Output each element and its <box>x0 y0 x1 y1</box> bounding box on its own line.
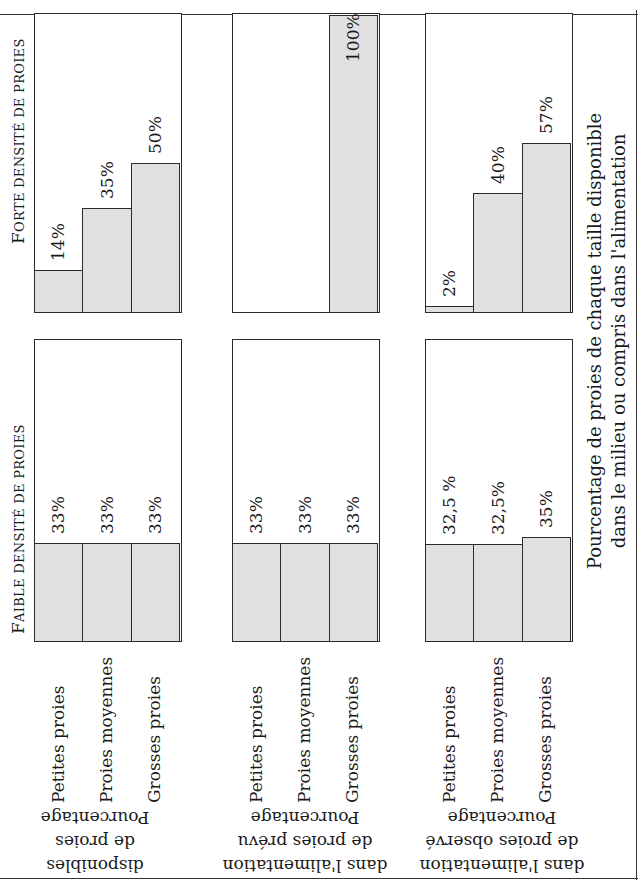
row-label-line: dans l'alimentation <box>215 854 395 878</box>
row-label-line: de proies <box>35 830 155 854</box>
bar-value-label: 35% <box>97 161 117 199</box>
bar-proies-moyennes <box>82 208 131 312</box>
category-label: Grosses proies <box>535 676 555 803</box>
frame-right-line <box>636 10 637 880</box>
row-label-line: Pourcentage <box>215 806 395 830</box>
row-label-observed: dans l'alimentation de proies observé Po… <box>412 806 592 878</box>
bar-petites-proies <box>34 270 83 312</box>
caption-line-2: dans le milieu ou compris dans l'aliment… <box>607 81 631 601</box>
row-label-available: disponibles de proies Pourcentage <box>35 806 155 878</box>
bar-value-label: 33% <box>246 496 266 534</box>
category-label: Proies moyennes <box>96 657 116 803</box>
row-label-line: dans l'alimentation <box>412 854 592 878</box>
bar-value-label: 35% <box>536 490 556 528</box>
bar-proies-moyennes <box>82 543 131 641</box>
high-density-heading: Forte densité de proies <box>8 38 28 244</box>
bar-grosses-proies <box>131 163 180 312</box>
category-label: Proies moyennes <box>487 657 507 803</box>
bar-proies-moyennes <box>473 193 522 312</box>
bar-value-label: 32,5% <box>488 481 508 535</box>
heading-initial: F <box>8 622 28 634</box>
bar-value-label: 57% <box>536 96 556 134</box>
bar-grosses-proies <box>522 537 571 641</box>
row-label-line: Pourcentage <box>35 806 155 830</box>
bar-petites-proies <box>232 543 281 641</box>
bar-proies-moyennes <box>280 543 329 641</box>
bar-value-label: 50% <box>145 116 165 154</box>
row-label-line: de proies observé <box>412 830 592 854</box>
heading-rest: orte densité de proies <box>12 38 27 232</box>
bar-proies-moyennes <box>473 544 522 641</box>
high-density-panel-2: 100% <box>232 13 380 313</box>
low-density-panel-3: 32,5 %32,5%35% <box>425 339 573 642</box>
bar-petites-proies <box>425 306 474 312</box>
heading-initial: F <box>8 232 28 244</box>
bar-value-label: 33% <box>48 496 68 534</box>
category-label: Petites proies <box>246 686 266 804</box>
category-label: Petites proies <box>48 686 68 804</box>
bar-value-label: 33% <box>97 496 117 534</box>
bar-value-label: 100% <box>343 13 363 62</box>
category-label: Proies moyennes <box>294 657 314 803</box>
category-label: Petites proies <box>439 686 459 804</box>
frame-bottom-line <box>0 878 638 879</box>
bar-value-label: 2% <box>439 270 459 297</box>
row-label-line: disponibles <box>35 854 155 878</box>
row-label-line: Pourcentage <box>412 806 592 830</box>
row-label-predicted: dans l'alimentation de proies prévu Pour… <box>215 806 395 878</box>
bar-petites-proies <box>34 543 83 641</box>
bar-grosses-proies <box>131 543 180 641</box>
high-density-panel-3: 2%40%57% <box>425 13 573 313</box>
low-density-heading: Faible densité de proies <box>8 424 28 634</box>
bar-grosses-proies <box>522 143 571 312</box>
category-label: Grosses proies <box>144 676 164 803</box>
bar-value-label: 33% <box>295 496 315 534</box>
row-label-line: de proies prévu <box>215 830 395 854</box>
bar-value-label: 32,5 % <box>439 476 459 535</box>
bar-value-label: 40% <box>488 146 508 184</box>
bar-value-label: 33% <box>145 496 165 534</box>
high-density-panel-1: 14%35%50% <box>34 13 182 313</box>
low-density-panel-1: 33%33%33% <box>34 339 182 642</box>
caption-line-1: Pourcentage de proies de chaque taille d… <box>583 81 607 601</box>
low-density-panel-2: 33%33%33% <box>232 339 380 642</box>
axis-caption: Pourcentage de proies de chaque taille d… <box>583 81 633 601</box>
bar-grosses-proies <box>329 543 378 641</box>
bar-petites-proies <box>425 544 474 641</box>
heading-rest: aible densité de proies <box>12 424 27 622</box>
bar-value-label: 33% <box>343 496 363 534</box>
bar-value-label: 14% <box>48 223 68 261</box>
category-label: Grosses proies <box>342 676 362 803</box>
